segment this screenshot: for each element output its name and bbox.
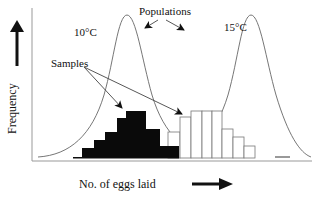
- axis-arrows: [10, 20, 233, 190]
- label-10c: 10°C: [74, 27, 97, 38]
- label-populations: Populations: [139, 6, 191, 17]
- samples-pointer-black: [84, 67, 122, 108]
- sample-bars-15c: [168, 111, 290, 158]
- annotation-pointers: [84, 20, 184, 114]
- arrow-up-icon: [10, 20, 24, 32]
- populations-pointer-right: [166, 20, 184, 30]
- arrow-right-icon: [219, 178, 233, 190]
- population-sample-diagram: 10°C 15°C Populations Samples Frequency …: [0, 0, 322, 204]
- label-15c: 15°C: [224, 22, 247, 33]
- y-axis-label: Frequency: [5, 83, 20, 134]
- label-samples: Samples: [51, 58, 88, 69]
- x-axis-label: No. of eggs laid: [79, 177, 156, 192]
- diagram-canvas: [0, 0, 322, 204]
- sample-bars-10c: [73, 111, 179, 158]
- populations-pointer-left: [145, 20, 158, 28]
- samples-pointer-white: [84, 67, 182, 114]
